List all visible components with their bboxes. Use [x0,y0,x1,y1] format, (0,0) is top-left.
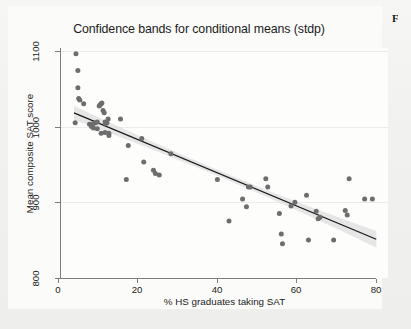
x-axis-line [60,278,376,279]
y-tick-label-1100: 1100 [30,35,41,69]
x-tick-60 [296,279,297,283]
gridline-900 [61,202,388,203]
x-axis-title: % HS graduates taking SAT [61,296,388,307]
screenshot-root: Confidence bands for conditional means (… [0,0,411,329]
gridline-1000 [61,127,388,128]
y-tick-label-800: 800 [30,262,41,296]
x-tick-0 [58,279,59,283]
y-tick-1100 [55,51,60,52]
figure-panel: Confidence bands for conditional means (… [8,6,382,309]
y-tick-900 [55,202,60,203]
y-axis-line [60,48,61,279]
x-tick-20 [137,279,138,283]
x-tick-label-20: 20 [122,284,152,295]
y-tick-1000 [55,127,60,128]
x-tick-40 [217,279,218,283]
chart-title: Confidence bands for conditional means (… [16,22,382,36]
gridline-1100 [61,51,388,52]
y-axis-title: Mean composite SAT score [24,94,35,214]
x-tick-label-80: 80 [361,284,391,295]
page-corner-letter: F [392,12,398,24]
x-tick-label-60: 60 [281,284,311,295]
x-tick-label-40: 40 [202,284,232,295]
plot-area [61,48,388,278]
x-tick-label-0: 0 [43,284,73,295]
x-tick-80 [376,279,377,283]
